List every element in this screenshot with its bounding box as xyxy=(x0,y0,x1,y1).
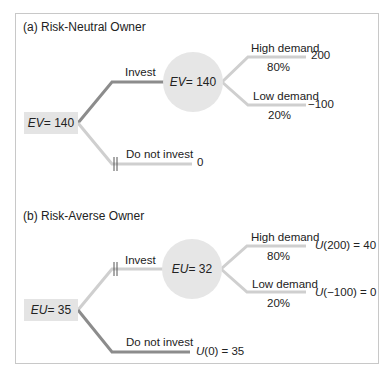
b-chance-node: EU = 32 xyxy=(162,239,222,299)
a-high-payoff: 200 xyxy=(311,50,330,62)
a-high-label: High demand xyxy=(251,43,319,55)
b-high-payoff: U(200) = 40 xyxy=(315,240,376,252)
a-chance-var: EV xyxy=(170,75,186,89)
b-chance-var: EU xyxy=(172,262,189,276)
utility-value: (200) = 40 xyxy=(323,239,376,251)
panel-a-title: (a) Risk-Neutral Owner xyxy=(23,21,146,33)
a-low-prob: 20% xyxy=(268,110,291,122)
b-low-payoff: U(−100) = 0 xyxy=(315,287,376,299)
b-not-invest-payoff: U(0) = 35 xyxy=(196,346,244,358)
a-invest-branch xyxy=(78,82,166,123)
a-invest-label: Invest xyxy=(125,67,156,79)
utility-value: (0) = 35 xyxy=(204,345,244,357)
panel-b-title: (b) Risk-Averse Owner xyxy=(23,210,144,222)
a-not-invest-label: Do not invest xyxy=(126,149,193,161)
a-not-invest-payoff: 0 xyxy=(197,157,203,169)
b-invest-branch xyxy=(78,269,164,310)
a-chance-node: EV = 140 xyxy=(163,52,223,112)
b-decision-var: EU xyxy=(31,303,48,317)
a-high-branch xyxy=(222,57,306,82)
b-chance-value: = 32 xyxy=(188,262,212,276)
b-high-label: High demand xyxy=(251,232,319,244)
b-decision-value: = 35 xyxy=(47,303,71,317)
a-decision-node: EV = 140 xyxy=(24,112,78,134)
a-chance-value: = 140 xyxy=(186,75,216,89)
utility-value: (−100) = 0 xyxy=(323,286,376,298)
b-invest-label: Invest xyxy=(125,255,156,267)
a-decision-var: EV xyxy=(28,116,44,130)
b-low-prob: 20% xyxy=(267,298,290,310)
b-not-invest-label: Do not invest xyxy=(126,337,193,349)
b-low-label: Low demand xyxy=(252,279,318,291)
b-decision-node: EU = 35 xyxy=(24,299,78,321)
a-low-payoff: −100 xyxy=(308,99,334,111)
b-high-prob: 80% xyxy=(267,251,290,263)
a-high-prob: 80% xyxy=(267,62,290,74)
a-decision-value: = 140 xyxy=(44,116,74,130)
b-high-branch xyxy=(221,246,306,269)
